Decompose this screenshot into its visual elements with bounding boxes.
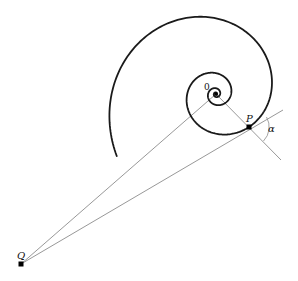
point-o <box>214 92 218 96</box>
point-p <box>247 125 252 130</box>
tangent-line-qp <box>21 110 283 264</box>
label-o: 0 <box>204 82 210 92</box>
spiral-diagram: 0 P Q α <box>0 0 298 281</box>
point-q <box>19 262 24 267</box>
label-p: P <box>245 113 253 124</box>
label-alpha: α <box>268 123 275 134</box>
label-q: Q <box>17 250 25 261</box>
logarithmic-spiral-curve <box>109 17 272 156</box>
line-qo <box>21 94 216 264</box>
